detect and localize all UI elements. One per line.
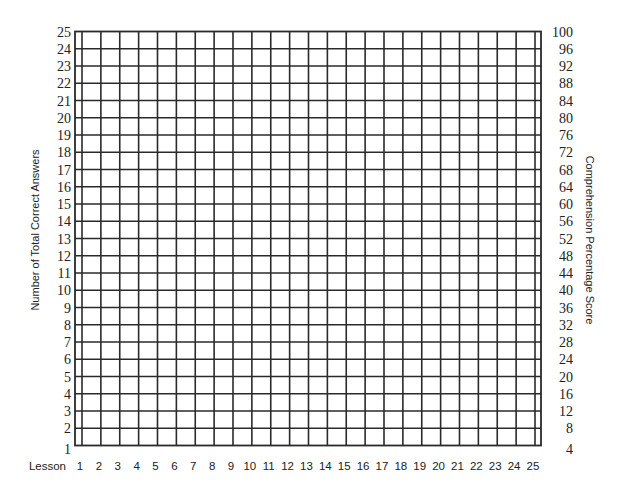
y-axis-tick-labels: 2524232221201918171615141312111098765432…	[57, 25, 71, 457]
x-tick-label: 2	[96, 460, 102, 472]
y-tick-label: 11	[58, 266, 71, 281]
x-tick-label: 20	[432, 460, 445, 472]
y-tick-label: 20	[57, 111, 71, 126]
x-tick-label: 18	[394, 460, 407, 472]
x-tick-label: 4	[133, 460, 140, 472]
x-tick-label: 14	[319, 460, 332, 472]
y2-tick-label: 84	[559, 94, 573, 109]
y-tick-label: 21	[57, 94, 71, 109]
x-tick-label: 21	[451, 460, 464, 472]
x-tick-label: 22	[470, 460, 483, 472]
y2-tick-label: 16	[559, 387, 573, 402]
y2-tick-label: 12	[559, 404, 573, 419]
grid-lines	[75, 32, 541, 446]
y2-tick-label: 4	[566, 442, 573, 457]
y2-axis-tick-labels: 1009692888480767268646056524844403632282…	[552, 25, 573, 457]
y2-tick-label: 36	[559, 301, 573, 316]
x-axis-label: Lesson	[29, 460, 66, 472]
y-tick-label: 12	[57, 249, 71, 264]
x-tick-label: 11	[263, 460, 275, 472]
y-tick-label: 7	[64, 335, 71, 350]
y-tick-label: 18	[57, 145, 71, 160]
y-tick-label: 2	[64, 421, 71, 436]
y-tick-label: 9	[64, 301, 71, 316]
x-axis-tick-labels: 1234567891011121314151617181920212223242…	[77, 460, 540, 472]
progress-chart: 2524232221201918171615141312111098765432…	[0, 0, 623, 498]
y-tick-label: 8	[64, 318, 71, 333]
x-tick-label: 6	[171, 460, 177, 472]
x-tick-label: 8	[209, 460, 215, 472]
x-tick-label: 12	[281, 460, 294, 472]
y2-tick-label: 44	[559, 266, 573, 281]
y2-tick-label: 40	[559, 283, 573, 298]
y2-tick-label: 80	[559, 111, 573, 126]
x-tick-label: 25	[527, 460, 540, 472]
y2-tick-label: 60	[559, 197, 573, 212]
y2-tick-label: 56	[559, 214, 573, 229]
x-tick-label: 3	[115, 460, 121, 472]
y2-tick-label: 20	[559, 370, 573, 385]
y-tick-label: 13	[57, 232, 71, 247]
x-tick-label: 19	[413, 460, 426, 472]
y-tick-label: 17	[57, 163, 71, 178]
x-tick-label: 5	[152, 460, 158, 472]
y-tick-label: 14	[57, 214, 71, 229]
y-tick-label: 23	[57, 59, 71, 74]
y-tick-label: 25	[57, 25, 71, 40]
x-tick-label: 23	[489, 460, 502, 472]
x-tick-label: 17	[376, 460, 389, 472]
y-axis-label: Number of Total Correct Answers	[29, 149, 41, 311]
y-tick-label: 19	[57, 128, 71, 143]
y2-tick-label: 68	[559, 163, 573, 178]
x-tick-label: 7	[190, 460, 196, 472]
y2-tick-label: 88	[559, 76, 573, 91]
y2-tick-label: 52	[559, 232, 573, 247]
x-tick-label: 15	[338, 460, 351, 472]
y2-tick-label: 96	[559, 42, 573, 57]
y2-tick-label: 24	[559, 352, 573, 367]
y-tick-label: 1	[64, 442, 71, 457]
y-tick-label: 6	[64, 352, 71, 367]
y2-tick-label: 72	[559, 145, 573, 160]
y2-tick-label: 32	[559, 318, 573, 333]
y-tick-label: 10	[57, 283, 71, 298]
x-tick-label: 16	[357, 460, 370, 472]
y-tick-label: 15	[57, 197, 71, 212]
y2-tick-label: 64	[559, 180, 573, 195]
y-tick-label: 4	[64, 387, 71, 402]
y2-tick-label: 92	[559, 59, 573, 74]
y-tick-label: 3	[64, 404, 71, 419]
y2-axis-label: Comprehension Percentage Score	[584, 156, 596, 325]
y-tick-label: 16	[57, 180, 71, 195]
y-tick-label: 22	[57, 76, 71, 91]
chart-grid-canvas: 2524232221201918171615141312111098765432…	[0, 0, 623, 498]
y2-tick-label: 8	[566, 421, 573, 436]
y-tick-label: 5	[64, 370, 71, 385]
x-tick-label: 24	[508, 460, 521, 472]
y-tick-label: 24	[57, 42, 71, 57]
x-tick-label: 1	[77, 460, 83, 472]
x-tick-label: 13	[300, 460, 313, 472]
y2-tick-label: 48	[559, 249, 573, 264]
y2-tick-label: 76	[559, 128, 573, 143]
x-tick-label: 10	[243, 460, 256, 472]
y2-tick-label: 28	[559, 335, 573, 350]
y2-tick-label: 100	[552, 25, 573, 40]
x-tick-label: 9	[228, 460, 234, 472]
